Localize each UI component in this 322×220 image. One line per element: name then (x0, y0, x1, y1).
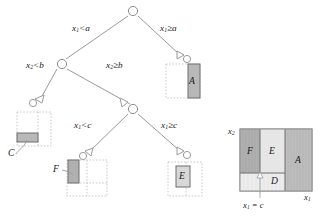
split-label-x1-ge-a: x1≥a (160, 24, 177, 34)
leaf-connector-C (29, 99, 36, 106)
leaf-C-shaded-region (17, 133, 38, 142)
partition-region-D (240, 173, 285, 191)
arrowhead-right-c (177, 147, 184, 155)
tree-edges (41, 16, 180, 151)
partition-axis-label-x2: x2 (228, 127, 235, 137)
split-label-x2-ge-b: x2≥b (106, 61, 123, 71)
feature-space-partition (240, 129, 312, 198)
partition-label-F: F (247, 146, 253, 156)
split-label-x1-lt-a: x1<a (72, 24, 90, 34)
edge-root-right (138, 16, 180, 55)
leaf-box-E (168, 162, 202, 196)
leaf-label-F: F (53, 164, 59, 174)
leaf-label-C: C (8, 148, 14, 158)
tree-node-left[interactable] (57, 59, 66, 68)
tree-node-root[interactable] (128, 6, 137, 15)
leaf-connector-F (79, 152, 86, 159)
leaf-box-C (16, 112, 51, 154)
edge-left-down (41, 69, 57, 98)
split-label-x1-lt-c: x1<c (74, 121, 91, 131)
leaf-label-E: E (179, 171, 185, 181)
figure-canvas: x1<a x1≥a x2<b x2≥b x1<c x1≥c A C F E F … (0, 0, 322, 220)
tree-internal-nodes (57, 6, 137, 113)
leaf-F-shaded-region (68, 160, 79, 183)
partition-label-A: A (295, 155, 301, 165)
tree-node-middle[interactable] (128, 104, 137, 113)
arrowhead-mid-b (120, 98, 128, 107)
leaf-connector-E (183, 151, 190, 158)
partition-axis-label-x1: x1 (304, 193, 311, 203)
leaf-label-A: A (189, 76, 195, 86)
arrowhead-right-a (177, 51, 184, 59)
partition-label-E: E (269, 146, 275, 156)
split-label-x2-lt-b: x2<b (26, 61, 44, 71)
leaf-connector-A (183, 55, 190, 62)
partition-label-D: D (271, 176, 278, 186)
leaf-box-F (62, 160, 107, 196)
edge-mid-left (90, 114, 128, 151)
split-label-x1-ge-c: x1≥c (161, 121, 177, 131)
partition-annotation-x1-eq-c: x1 = c (243, 201, 264, 211)
